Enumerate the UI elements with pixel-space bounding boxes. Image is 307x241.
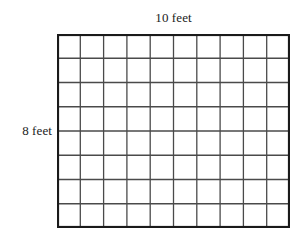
grid-cell xyxy=(150,34,173,58)
grid-cell xyxy=(267,131,290,155)
grid-cell xyxy=(220,155,243,179)
grid-cell xyxy=(104,83,127,107)
grid-cell xyxy=(57,131,80,155)
grid-cell xyxy=(57,58,80,82)
grid-cell xyxy=(197,83,220,107)
grid-cell xyxy=(80,58,103,82)
grid-cell xyxy=(197,107,220,131)
grid-cell xyxy=(127,107,150,131)
grid-cell xyxy=(174,34,197,58)
grid-cell xyxy=(80,107,103,131)
grid-cell xyxy=(127,155,150,179)
grid-cell xyxy=(80,131,103,155)
grid-cell xyxy=(104,155,127,179)
grid-cell xyxy=(174,131,197,155)
grid-container xyxy=(57,34,290,228)
left-dimension-label: 8 feet xyxy=(0,123,52,139)
top-dimension-label: 10 feet xyxy=(57,10,290,26)
grid-cell xyxy=(220,204,243,228)
grid-cell xyxy=(104,58,127,82)
grid-cell xyxy=(197,180,220,204)
grid-cell xyxy=(243,131,266,155)
grid-cell xyxy=(104,131,127,155)
grid-cell xyxy=(150,180,173,204)
area-model-figure: 10 feet 8 feet xyxy=(0,0,307,241)
grid-cell xyxy=(197,204,220,228)
grid-cell xyxy=(243,58,266,82)
grid-cell xyxy=(57,180,80,204)
grid-cell xyxy=(267,180,290,204)
grid-cell xyxy=(267,155,290,179)
grid-cell xyxy=(80,34,103,58)
grid-cell xyxy=(174,83,197,107)
grid-cell xyxy=(57,204,80,228)
grid-cell xyxy=(174,58,197,82)
grid-cell xyxy=(57,155,80,179)
grid-cell xyxy=(104,107,127,131)
grid-cell xyxy=(197,34,220,58)
grid-cell xyxy=(243,155,266,179)
grid-cell xyxy=(104,34,127,58)
grid-cell xyxy=(243,34,266,58)
grid-cell xyxy=(150,83,173,107)
grid-cell xyxy=(127,58,150,82)
grid-cell xyxy=(267,58,290,82)
grid-cell xyxy=(127,131,150,155)
grid-cell xyxy=(220,131,243,155)
grid-cell xyxy=(197,155,220,179)
grid-cell xyxy=(197,58,220,82)
grid-cell xyxy=(220,58,243,82)
grid-cell xyxy=(127,204,150,228)
grid-cell xyxy=(127,180,150,204)
grid-cell xyxy=(174,107,197,131)
grid-cell xyxy=(197,131,220,155)
grid-cell xyxy=(220,180,243,204)
grid-cell xyxy=(243,83,266,107)
grid-cell xyxy=(150,131,173,155)
grid-cell xyxy=(267,204,290,228)
grid-cell xyxy=(243,180,266,204)
grid-cell xyxy=(220,34,243,58)
grid-cell xyxy=(80,83,103,107)
grid-cell xyxy=(57,34,80,58)
grid-cell xyxy=(80,180,103,204)
grid-cell xyxy=(127,34,150,58)
grid-cell xyxy=(150,58,173,82)
grid-cell xyxy=(150,204,173,228)
grid-cell xyxy=(80,204,103,228)
grid-cell xyxy=(220,83,243,107)
grid-cell xyxy=(267,107,290,131)
grid-cell xyxy=(104,204,127,228)
grid-cell xyxy=(150,155,173,179)
grid-cell xyxy=(243,107,266,131)
grid-cell xyxy=(150,107,173,131)
grid-cell xyxy=(174,204,197,228)
grid-cell xyxy=(243,204,266,228)
grid-cell xyxy=(174,180,197,204)
grid-cell xyxy=(80,155,103,179)
grid-cell xyxy=(127,83,150,107)
grid-cell xyxy=(57,107,80,131)
grid-cell xyxy=(220,107,243,131)
grid-cell xyxy=(267,34,290,58)
grid-cell xyxy=(267,83,290,107)
grid-svg xyxy=(57,34,290,228)
grid-cell xyxy=(104,180,127,204)
grid-cell xyxy=(57,83,80,107)
grid-cell xyxy=(174,155,197,179)
